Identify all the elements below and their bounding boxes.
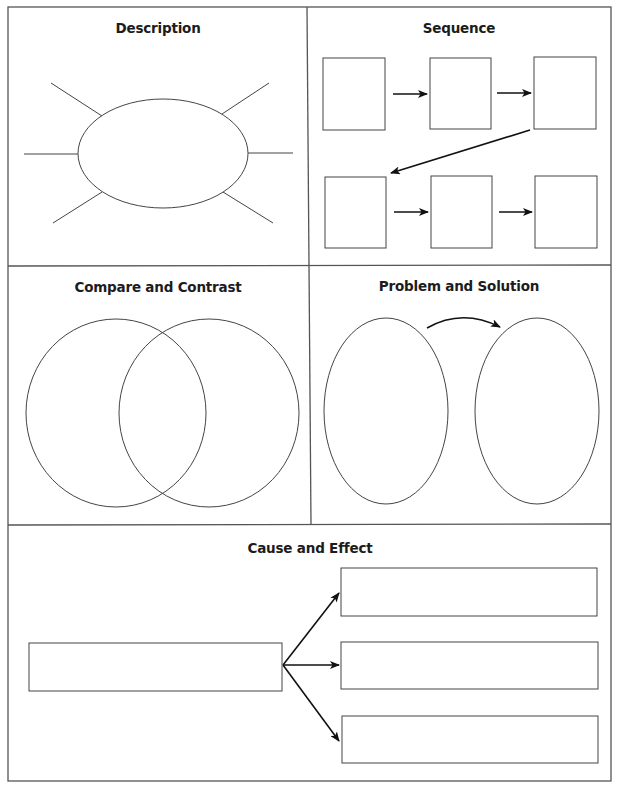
cause-effect-diagram: [29, 568, 598, 763]
effect-arrow-icon: [283, 665, 339, 741]
sequence-box-5[interactable]: [431, 176, 492, 248]
sequence-box-2[interactable]: [430, 58, 491, 129]
effect-box-1[interactable]: [341, 568, 597, 616]
description-spoke[interactable]: [53, 192, 102, 223]
sequence-box-4[interactable]: [325, 177, 386, 248]
effect-box-2[interactable]: [341, 642, 598, 689]
venn-right-circle[interactable]: [119, 319, 299, 507]
description-spoke[interactable]: [51, 83, 102, 116]
problem-solution-diagram: [324, 318, 599, 504]
sequence-box-3[interactable]: [534, 57, 596, 129]
description-spoke[interactable]: [223, 192, 273, 223]
section-title-problem-solution: Problem and Solution: [359, 278, 559, 294]
sequence-diagram: [323, 57, 597, 248]
graphic-organizer-canvas: [0, 0, 620, 788]
section-title-description: Description: [58, 20, 258, 36]
curved-arrow-icon: [427, 318, 500, 328]
solution-oval[interactable]: [475, 318, 599, 504]
section-title-compare-contrast: Compare and Contrast: [58, 279, 258, 295]
effect-arrow-icon: [283, 593, 339, 665]
cause-box[interactable]: [29, 643, 282, 691]
section-title-cause-effect: Cause and Effect: [210, 540, 410, 556]
problem-oval[interactable]: [324, 318, 448, 504]
effect-box-3[interactable]: [342, 716, 598, 763]
sequence-diagonal-arrow-icon: [391, 130, 530, 173]
sequence-box-1[interactable]: [323, 58, 385, 130]
description-center-ellipse[interactable]: [78, 99, 248, 208]
venn-left-circle[interactable]: [26, 319, 206, 507]
description-spoke[interactable]: [222, 83, 269, 114]
sequence-box-6[interactable]: [535, 176, 597, 248]
section-title-sequence: Sequence: [359, 20, 559, 36]
venn-diagram: [26, 319, 299, 507]
description-diagram: [24, 83, 293, 223]
